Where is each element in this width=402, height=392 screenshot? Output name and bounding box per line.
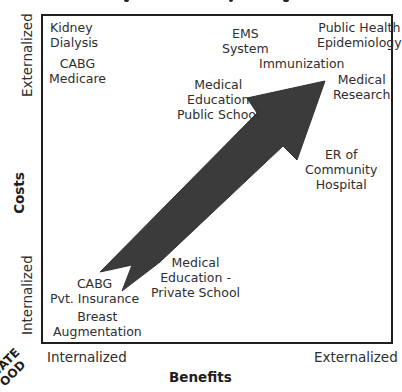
label-public-health-epidemiology: Public Health Epidemiology (317, 20, 402, 50)
label-cabg-pvt-insurance: CABG Pvt. Insurance (50, 276, 139, 306)
x-axis-right-label: Externalized (314, 349, 398, 365)
label-medical-research: Medical Research (333, 72, 390, 102)
x-axis-title: Benefits (169, 369, 232, 385)
label-kidney-dialysis: Kidney Dialysis (50, 20, 98, 50)
label-er-community-hospital: ER of Community Hospital (305, 147, 377, 192)
label-medical-education-private: Medical Education - Private School (151, 255, 240, 300)
y-axis-bottom-label: Internalized (19, 261, 35, 335)
label-ems-system: EMS System (222, 26, 269, 56)
label-medical-education-public: Medical Education Public School (177, 77, 259, 122)
x-axis-left-label: Internalized (47, 349, 127, 365)
y-axis-title: Costs (11, 168, 27, 218)
label-cabg-medicare: CABG Medicare (49, 56, 106, 86)
label-breast-augmentation: Breast Augmentation (53, 309, 142, 339)
label-immunization: Immunization (259, 56, 345, 71)
y-axis-top-label: Externalized (19, 23, 35, 97)
